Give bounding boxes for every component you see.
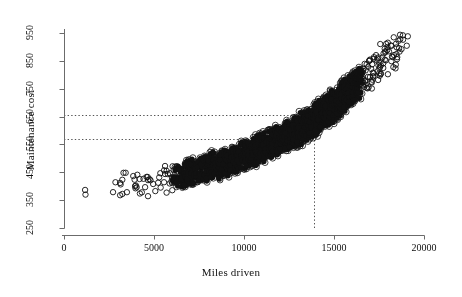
x-tick-label: 20000 (394, 242, 454, 253)
x-tick-label: 5000 (124, 242, 184, 253)
x-tick-label: 0 (34, 242, 94, 253)
scatter-plot-figure: Miles driven Maintenance cost 0500010000… (0, 0, 462, 297)
x-tick-label: 10000 (214, 242, 274, 253)
y-tick-label: 950 (24, 10, 35, 56)
x-tick-label: 15000 (304, 242, 364, 253)
x-axis-title: Miles driven (0, 266, 462, 278)
